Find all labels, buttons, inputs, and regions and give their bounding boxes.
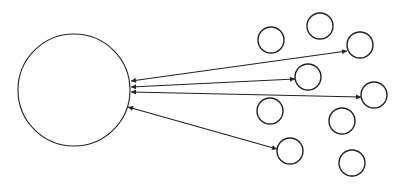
bidirectional-arrow-s4 [131, 79, 295, 87]
satellite-node-s5 [361, 82, 387, 108]
bidirectional-arrow-s8 [128, 107, 277, 149]
satellite-node-s7 [329, 108, 355, 134]
hub-node [18, 34, 130, 146]
satellite-node-s1 [258, 27, 284, 53]
satellite-node-s8 [277, 138, 303, 164]
satellite-node-s6 [257, 98, 283, 124]
satellite-node-s3 [347, 32, 373, 58]
satellite-node-s4 [295, 64, 321, 90]
hub-diagram [0, 0, 407, 184]
satellite-node-s9 [339, 150, 365, 176]
satellite-node-s2 [307, 13, 333, 39]
bidirectional-arrow-s5 [131, 92, 361, 97]
